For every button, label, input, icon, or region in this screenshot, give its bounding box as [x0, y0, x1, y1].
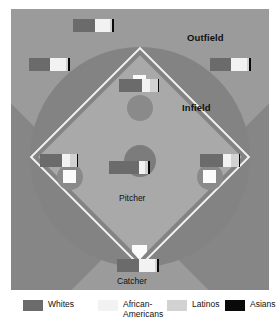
position-bar-left-field: [29, 58, 70, 71]
bar-segment-african-americans: [142, 79, 150, 92]
bar-segment-whites: [210, 58, 231, 71]
bar-segment-african-americans: [62, 154, 70, 167]
bar-segment-latinos: [70, 154, 77, 167]
bar-segment-african-americans: [139, 259, 155, 272]
first-base-marker: [203, 170, 216, 183]
bar-segment-whites: [40, 154, 62, 167]
legend-label-latinos: Latinos: [192, 299, 219, 309]
pitcher-position-label: Pitcher: [119, 194, 145, 203]
bar-segment-african-americans: [231, 58, 247, 71]
bar-segment-asians: [158, 79, 159, 92]
legend-item-african-americans: African- Americans: [98, 299, 163, 319]
bar-segment-asians: [157, 259, 159, 272]
third-base-marker: [63, 170, 76, 183]
infield-region-label: Infield: [182, 103, 211, 113]
bar-segment-whites: [109, 161, 139, 174]
bar-segment-latinos: [150, 79, 158, 92]
position-bar-center-field: [73, 19, 114, 32]
bar-segment-latinos: [231, 154, 239, 167]
position-bar-catcher: [117, 259, 159, 272]
legend-label-african-americans: African- Americans: [123, 299, 163, 319]
legend-item-whites: Whites: [23, 299, 74, 311]
legend-item-latinos: Latinos: [167, 299, 219, 311]
legend-swatch-asians: [225, 300, 245, 311]
position-bar-second-base: [119, 79, 159, 92]
second-base-dirt: [127, 95, 153, 121]
legend: Whites African- Americans Latinos Asians: [11, 297, 269, 325]
position-bar-third-base: [40, 154, 78, 167]
legend-item-asians: Asians: [225, 299, 276, 311]
baseball-field-panel: Outfield Infield Pitcher Catcher: [11, 9, 269, 290]
bar-segment-asians: [249, 58, 251, 71]
bar-segment-african-americans: [95, 19, 110, 32]
bar-segment-asians: [148, 161, 150, 174]
baseball-field-composition-figure: Outfield Infield Pitcher Catcher Whites …: [0, 0, 280, 328]
bar-segment-african-americans: [223, 154, 231, 167]
legend-label-asians: Asians: [250, 299, 276, 309]
catcher-position-label: Catcher: [117, 277, 147, 286]
bar-segment-whites: [117, 259, 139, 272]
bar-segment-asians: [239, 154, 240, 167]
legend-swatch-african-americans: [98, 300, 118, 311]
position-bar-pitcher: [109, 161, 150, 174]
position-bar-right-field: [210, 58, 251, 71]
outfield-region-label: Outfield: [187, 33, 224, 43]
legend-swatch-whites: [23, 300, 43, 311]
bar-segment-asians: [77, 154, 78, 167]
legend-swatch-latinos: [167, 300, 187, 311]
bar-segment-whites: [119, 79, 142, 92]
legend-label-whites: Whites: [48, 299, 74, 309]
bar-segment-african-americans: [50, 58, 66, 71]
bar-segment-asians: [112, 19, 114, 32]
bar-segment-whites: [29, 58, 50, 71]
bar-segment-whites: [73, 19, 95, 32]
bar-segment-whites: [200, 154, 223, 167]
bar-segment-asians: [68, 58, 70, 71]
position-bar-first-base: [200, 154, 240, 167]
